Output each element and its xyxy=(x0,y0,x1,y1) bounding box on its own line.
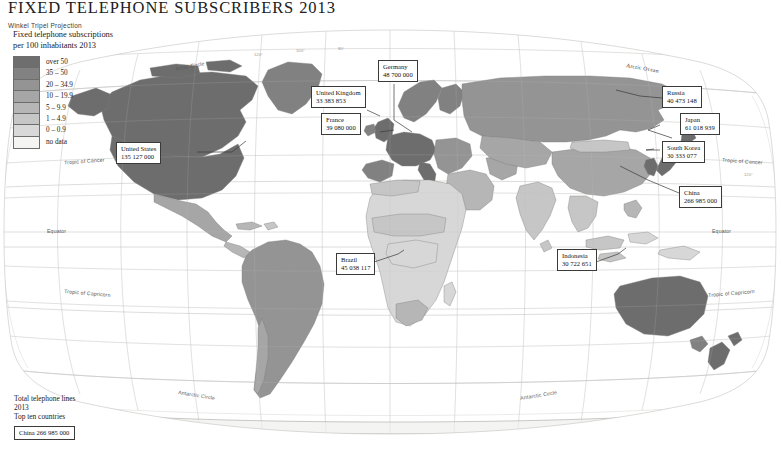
callout-united-states[interactable]: United States 135 127 000 xyxy=(116,142,161,164)
callout-value: 39 080 000 xyxy=(326,124,356,132)
callout-united-kingdom[interactable]: United Kingdom 33 383 853 xyxy=(311,86,366,108)
callout-value: 135 127 000 xyxy=(121,153,156,161)
callout-value: 30 333 077 xyxy=(667,152,700,160)
top-country-name: China xyxy=(19,429,35,436)
callout-value: 61 018 939 xyxy=(685,124,715,132)
map-page: FIXED TELEPHONE SUBSCRIBERS 2013 Winkel … xyxy=(0,0,781,464)
callout-country: South Korea xyxy=(667,144,700,152)
callout-france[interactable]: France 39 080 000 xyxy=(321,113,361,135)
callout-country: United States xyxy=(121,145,156,153)
callout-country: Brazil xyxy=(341,256,370,264)
callout-country: Germany xyxy=(383,63,413,71)
callout-russia[interactable]: Russia 40 473 148 xyxy=(662,86,702,108)
callout-south-korea[interactable]: South Korea 30 333 077 xyxy=(662,141,705,163)
callout-value: 33 383 853 xyxy=(316,97,361,105)
callout-value: 45 038 117 xyxy=(341,264,370,272)
callout-value: 40 473 148 xyxy=(667,97,697,105)
callout-value: 30 722 651 xyxy=(562,260,592,268)
callout-china[interactable]: China 266 985 000 xyxy=(679,186,722,208)
callout-country: China xyxy=(684,189,717,197)
top-country-entry[interactable]: China 266 985 000 xyxy=(14,426,75,440)
callout-country: Indonesia xyxy=(562,252,592,260)
callout-value: 48 700 000 xyxy=(383,71,413,79)
callout-country: Russia xyxy=(667,89,697,97)
callout-country: France xyxy=(326,116,356,124)
callout-country: United Kingdom xyxy=(316,89,361,97)
top-country-value: 266 985 000 xyxy=(36,429,69,436)
total-lines-panel: Total telephone lines 2013 Top ten count… xyxy=(14,395,75,440)
callout-brazil[interactable]: Brazil 45 038 117 xyxy=(336,253,375,275)
callout-country: Japan xyxy=(685,116,715,124)
callout-value: 266 985 000 xyxy=(684,197,717,205)
callout-japan[interactable]: Japan 61 018 939 xyxy=(680,113,720,135)
callout-germany[interactable]: Germany 48 700 000 xyxy=(378,60,418,82)
callout-indonesia[interactable]: Indonesia 30 722 651 xyxy=(557,249,597,271)
stats-subtitle: Top ten countries xyxy=(14,413,75,422)
